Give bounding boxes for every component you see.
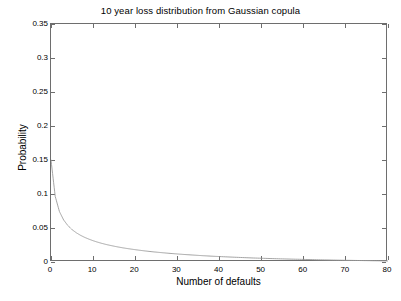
x-tick-label: 70 bbox=[340, 265, 349, 274]
y-tick-label: 0.05 bbox=[32, 223, 48, 232]
y-tick-label: 0.35 bbox=[32, 19, 48, 28]
plot-inner bbox=[51, 24, 386, 260]
x-tick-label: 40 bbox=[214, 265, 223, 274]
data-series-layer bbox=[51, 24, 388, 262]
y-tick-label: 0.2 bbox=[37, 121, 48, 130]
series-line-loss-distribution bbox=[51, 160, 388, 261]
y-tick-label: 0.1 bbox=[37, 189, 48, 198]
y-tick-label: 0.15 bbox=[32, 155, 48, 164]
y-tick-label: 0.25 bbox=[32, 87, 48, 96]
y-axis-title: Probability bbox=[17, 78, 28, 218]
x-tick-label: 50 bbox=[256, 265, 265, 274]
x-tick-label: 60 bbox=[298, 265, 307, 274]
x-tick-label: 0 bbox=[48, 265, 52, 274]
plot-area bbox=[50, 23, 387, 261]
y-tick-label: 0.3 bbox=[37, 53, 48, 62]
x-tick-label: 30 bbox=[172, 265, 181, 274]
chart-figure: 10 year loss distribution from Gaussian … bbox=[0, 0, 401, 301]
x-axis-title: Number of defaults bbox=[50, 276, 387, 287]
x-tick-label: 20 bbox=[130, 265, 139, 274]
chart-title: 10 year loss distribution from Gaussian … bbox=[0, 5, 401, 16]
x-tick-label: 10 bbox=[88, 265, 97, 274]
x-tick-label: 80 bbox=[383, 265, 392, 274]
